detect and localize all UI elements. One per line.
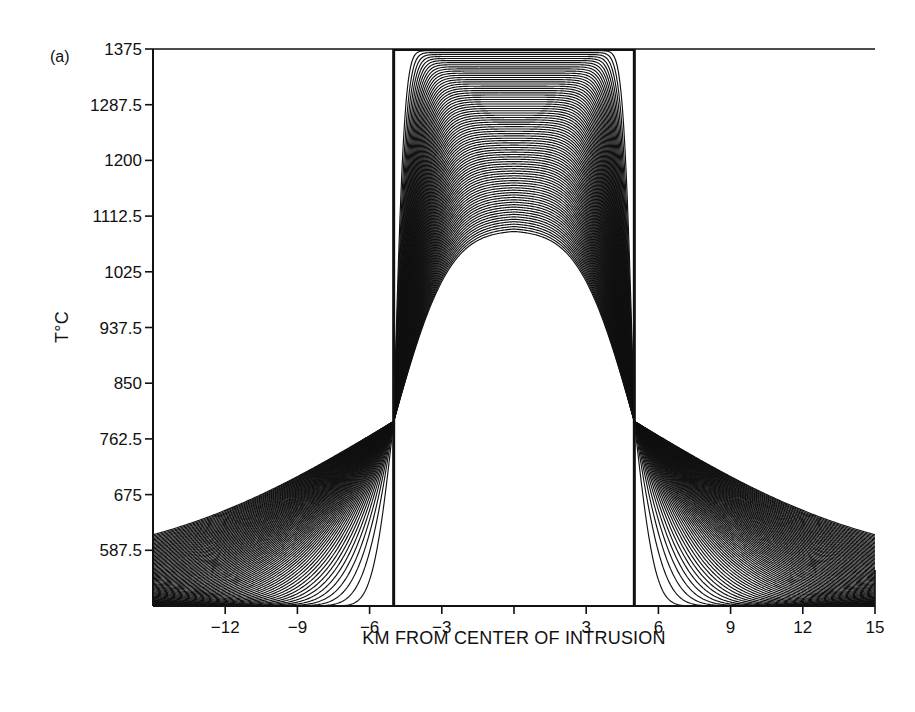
panel-label: (a) bbox=[50, 48, 70, 65]
x-tick-label: 9 bbox=[726, 618, 735, 637]
x-tick-label: 15 bbox=[866, 618, 885, 637]
y-tick-label: 850 bbox=[114, 374, 142, 393]
y-tick-label: 587.5 bbox=[99, 541, 142, 560]
y-axis-title: T°C bbox=[52, 311, 72, 343]
profile-curve bbox=[153, 217, 875, 543]
y-tick-label: 1025 bbox=[104, 263, 142, 282]
y-tick-label: 1112.5 bbox=[93, 207, 142, 226]
profile-curve bbox=[153, 231, 875, 534]
y-tick-label: 1287.5 bbox=[90, 96, 142, 115]
profile-curve bbox=[153, 224, 875, 539]
profile-curve bbox=[153, 227, 875, 538]
x-tick-label: −9 bbox=[288, 618, 307, 637]
profile-curve bbox=[153, 219, 875, 541]
temperature-profile-curves bbox=[153, 49, 875, 606]
y-tick-label: 1200 bbox=[104, 151, 142, 170]
x-axis-title: KM FROM CENTER OF INTRUSION bbox=[362, 628, 665, 648]
thermal-profile-chart: 13751287.512001112.51025937.5850762.5675… bbox=[0, 0, 915, 712]
profile-curve bbox=[153, 222, 875, 540]
y-tick-label: 1375 bbox=[104, 40, 142, 59]
x-tick-label: 12 bbox=[793, 618, 812, 637]
y-tick-label: 675 bbox=[114, 486, 142, 505]
y-tick-label: 762.5 bbox=[99, 430, 142, 449]
profile-curve bbox=[153, 229, 875, 536]
x-tick-label: −12 bbox=[211, 618, 240, 637]
y-tick-label: 937.5 bbox=[99, 319, 142, 338]
